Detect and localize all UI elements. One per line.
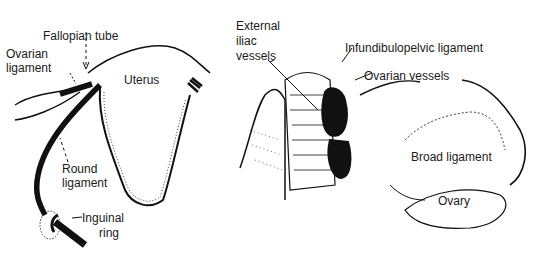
label-round-ligament-line2: ligament (62, 176, 107, 190)
label-uterus: Uterus (124, 73, 159, 87)
label-ovarian-vessels: Ovarian vessels (364, 69, 449, 83)
label-round-ligament-line1: Round (62, 162, 97, 176)
label-inguinal-ring-line2: ring (99, 226, 119, 240)
label-broad-ligament: Broad ligament (411, 150, 492, 164)
label-external-iliac-line3: vessels (236, 49, 276, 63)
label-infundibulopelvic-ligament: Infundibulopelvic ligament (345, 41, 483, 55)
label-ovarian-ligament-line2: ligament (6, 61, 51, 75)
label-ovarian-ligament-line1: Ovarian (6, 47, 48, 61)
label-external-iliac-line1: External (236, 19, 280, 33)
label-external-iliac-line2: iliac (236, 34, 257, 48)
anatomy-diagram: Fallopian tube Ovarian ligament Uterus R… (0, 0, 550, 259)
label-fallopian-tube: Fallopian tube (43, 29, 118, 43)
label-inguinal-ring-line1: Inguinal (82, 211, 124, 225)
label-ovary: Ovary (438, 194, 470, 208)
